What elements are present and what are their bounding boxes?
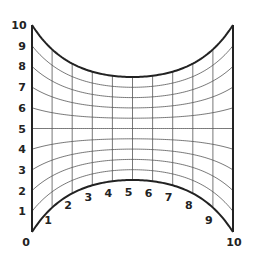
bottom-curve-label: 3 (84, 192, 92, 203)
left-axis-label: 2 (18, 185, 26, 196)
bottom-curve-label: 8 (185, 200, 193, 211)
left-axis-label: 3 (18, 164, 26, 175)
bottom-curve-label: 2 (64, 200, 72, 211)
left-axis-label: 4 (18, 144, 26, 155)
bottom-curve-label: 7 (165, 192, 173, 203)
diagram-canvas: 12345678910123456789010 (0, 0, 253, 265)
corner-label-origin: 0 (22, 237, 30, 248)
bottom-curve-label: 1 (44, 214, 52, 225)
warped-grid (0, 0, 253, 265)
bottom-curve-label: 9 (205, 214, 213, 225)
bottom-boundary-curve (32, 180, 233, 232)
bottom-curve-label: 4 (105, 188, 113, 199)
top-boundary-curve (32, 25, 233, 77)
left-axis-label: 1 (18, 206, 26, 217)
left-axis-label: 10 (11, 20, 26, 31)
left-axis-label: 8 (18, 61, 26, 72)
left-axis-label: 9 (18, 40, 26, 51)
bottom-curve-label: 5 (125, 187, 133, 198)
left-axis-label: 6 (18, 102, 26, 113)
left-axis-label: 5 (18, 123, 26, 134)
bottom-curve-label: 6 (145, 188, 153, 199)
left-axis-label: 7 (18, 82, 26, 93)
corner-label-end: 10 (226, 237, 241, 248)
